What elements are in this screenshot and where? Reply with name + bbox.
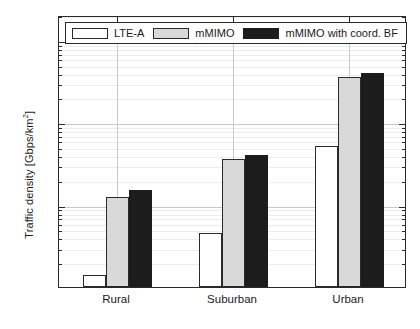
y-axis-title-tail: ] [23,111,35,114]
bar [83,275,106,287]
y-tick-minor [59,210,62,211]
y-tick-minor [402,167,405,168]
y-tick-minor [402,60,405,61]
y-axis-title-text: Traffic density [Gbps/km [23,118,35,238]
legend-entry[interactable]: mMIMO [153,27,234,39]
gridline-minor [59,50,405,51]
y-tick-minor [402,128,405,129]
y-tick-minor [402,182,405,183]
y-axis-title: Traffic density [Gbps/km2] [21,55,35,295]
y-tick-minor [402,55,405,56]
y-tick-minor [59,17,62,18]
y-tick-minor [59,182,62,183]
gridline-minor [59,67,405,68]
bar [338,77,361,287]
y-tick-minor [402,17,405,18]
y-tick-minor [59,250,62,251]
y-tick-major [59,207,65,208]
y-tick-minor [402,75,405,76]
y-tick-minor [59,149,62,150]
y-tick-minor [402,210,405,211]
y-tick-minor [59,219,62,220]
y-tick-minor [59,75,62,76]
y-tick-major [59,124,65,125]
y-tick-minor [402,250,405,251]
y-tick-minor [59,157,62,158]
legend-label: mMIMO with coord. BF [285,27,397,39]
y-tick-minor [59,46,62,47]
legend-swatch-icon [153,28,189,39]
y-tick-major [399,207,405,208]
y-tick-minor [402,239,405,240]
gridline-minor [59,60,405,61]
y-tick-major [399,124,405,125]
legend-swatch-icon [72,28,108,39]
y-tick-minor [59,167,62,168]
bar [315,146,338,287]
chart-figure: Traffic density [Gbps/km2] 100101102103 … [0,0,420,329]
y-tick-minor [402,231,405,232]
y-tick-minor [59,215,62,216]
legend-entry[interactable]: LTE-A [72,27,144,39]
y-tick-minor [59,60,62,61]
gridline-minor [59,75,405,76]
legend-entry[interactable]: mMIMO with coord. BF [243,27,397,39]
y-tick-minor [59,55,62,56]
gridline-minor [59,17,405,18]
bar [199,233,222,287]
y-tick-minor [59,264,62,265]
y-tick-minor [402,142,405,143]
y-tick-minor [402,46,405,47]
y-tick-minor [59,225,62,226]
y-tick-minor [402,157,405,158]
y-tick-minor [59,85,62,86]
gridline-minor [59,55,405,56]
y-tick-minor [402,85,405,86]
bar [222,159,245,287]
y-tick-minor [59,67,62,68]
y-tick-minor [402,99,405,100]
bar [106,197,129,287]
bar [129,190,152,287]
y-tick-minor [402,67,405,68]
y-tick-minor [402,149,405,150]
y-tick-minor [402,132,405,133]
x-tick-label: Rural [102,293,129,305]
y-tick-minor [59,132,62,133]
y-tick-minor [59,128,62,129]
y-tick-minor [402,219,405,220]
bar [245,155,268,287]
legend-label: LTE-A [114,27,144,39]
y-tick-minor [402,264,405,265]
legend-swatch-icon [243,28,279,39]
y-axis-title-superscript: 2 [21,114,30,118]
y-tick-minor [59,239,62,240]
x-tick-label: Suburban [207,293,257,305]
legend-label: mMIMO [195,27,234,39]
y-tick-minor [59,231,62,232]
y-tick-minor [402,215,405,216]
y-tick-minor [59,99,62,100]
y-tick-minor [402,137,405,138]
plot-area [58,16,406,288]
x-tick-label: Urban [332,293,363,305]
chart-legend: LTE-AmMIMOmMIMO with coord. BF [65,22,407,44]
y-tick-minor [402,50,405,51]
gridline-minor [59,46,405,47]
y-tick-minor [402,225,405,226]
y-tick-minor [59,50,62,51]
bar [361,73,384,287]
y-tick-minor [59,142,62,143]
y-tick-minor [59,137,62,138]
